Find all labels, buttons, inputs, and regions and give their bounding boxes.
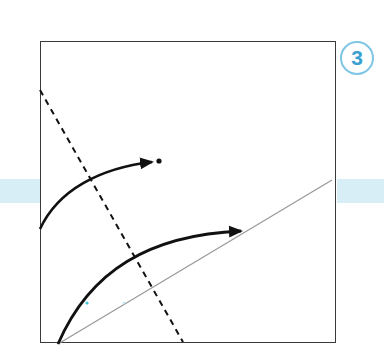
cyan-mark-2 (123, 302, 126, 305)
dashed-fold-line (40, 90, 183, 342)
reference-line (58, 180, 332, 344)
cyan-mark-1 (85, 301, 88, 304)
folding-diagram (0, 0, 384, 360)
target-dot (156, 158, 161, 163)
step-number-badge: 3 (340, 41, 374, 75)
upper-fold-arrow (40, 162, 152, 229)
step-number: 3 (351, 46, 363, 70)
